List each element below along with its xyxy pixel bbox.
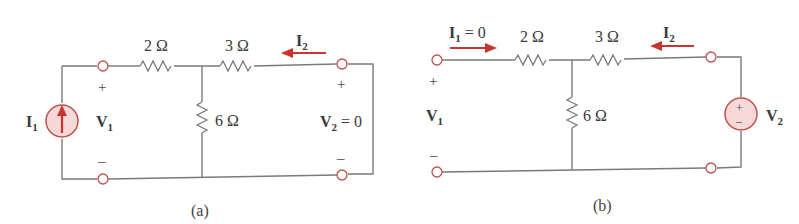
wire xyxy=(624,57,706,59)
label-2ohm: 2 Ω xyxy=(520,28,544,45)
wire xyxy=(442,168,706,172)
caption-a: (a) xyxy=(191,202,209,220)
label-v2: V2 = 0 xyxy=(320,113,362,133)
wire xyxy=(62,139,97,179)
resistor-2ohm xyxy=(140,61,171,71)
label-3ohm: 3 Ω xyxy=(595,28,619,45)
wire xyxy=(108,175,337,179)
label-6ohm: 6 Ω xyxy=(215,112,239,129)
arrow-right-icon xyxy=(485,43,497,53)
label-v2: V2 xyxy=(766,107,784,127)
terminal xyxy=(98,174,108,184)
label-i1: I1 xyxy=(26,113,38,133)
minus-sign: – xyxy=(97,153,106,169)
label-v1: V1 xyxy=(96,113,113,133)
minus-sign: – xyxy=(336,150,345,166)
terminal xyxy=(337,170,347,180)
figure-a: 2 Ω 3 Ω 6 Ω I2 I1 V1 + – V2 = 0 + – (a) xyxy=(26,32,373,220)
arrow-left-icon xyxy=(281,48,293,58)
plus-sign: + xyxy=(429,73,437,89)
wire xyxy=(717,131,741,168)
resistor-6ohm xyxy=(197,102,207,133)
label-3ohm: 3 Ω xyxy=(225,37,249,54)
resistor-3ohm xyxy=(590,55,621,65)
label-i2: I2 xyxy=(663,24,675,44)
caption-b: (b) xyxy=(593,197,612,215)
plus-sign: + xyxy=(98,79,106,95)
resistor-2ohm xyxy=(515,55,546,65)
source-minus: – xyxy=(735,114,743,128)
label-6ohm: 6 Ω xyxy=(583,107,607,124)
label-i1: I1 = 0 xyxy=(449,24,486,44)
arrow-left-icon xyxy=(650,41,662,51)
circuit-diagrams: 2 Ω 3 Ω 6 Ω I2 I1 V1 + – V2 = 0 + – (a) … xyxy=(0,0,799,224)
resistor-6ohm xyxy=(567,97,577,128)
terminal xyxy=(706,163,716,173)
wire xyxy=(717,57,741,97)
wire xyxy=(254,64,337,66)
terminal xyxy=(432,55,442,65)
plus-sign: + xyxy=(337,76,345,92)
resistor-3ohm xyxy=(220,61,251,71)
label-2ohm: 2 Ω xyxy=(144,37,168,54)
terminal xyxy=(98,61,108,71)
terminal xyxy=(706,52,716,62)
terminal xyxy=(432,167,442,177)
source-plus: + xyxy=(736,101,743,115)
label-v1: V1 xyxy=(426,107,443,127)
figure-b: + – I1 = 0 2 Ω 3 Ω I2 6 Ω V1 + – V2 (b) xyxy=(426,24,784,215)
label-i2: I2 xyxy=(296,32,308,52)
terminal xyxy=(337,59,347,69)
minus-sign: – xyxy=(429,147,438,163)
